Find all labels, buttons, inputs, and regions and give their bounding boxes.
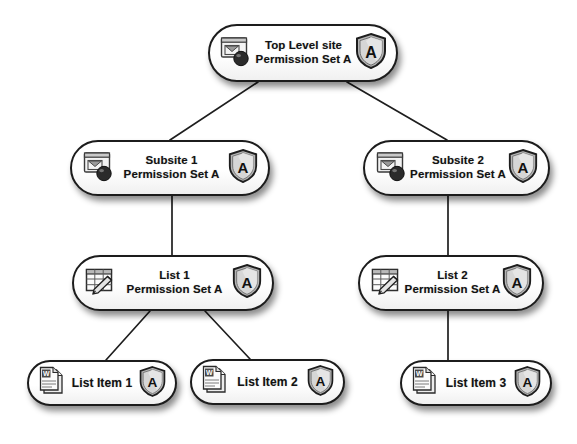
shield-badge-letter: A xyxy=(316,374,326,389)
node-list-2[interactable]: List 2 Permission Set A A xyxy=(358,255,544,311)
document-icon: W xyxy=(201,365,229,399)
node-label-line1: List 1 xyxy=(159,269,190,281)
list-icon xyxy=(370,266,404,300)
node-list-item-2[interactable]: W List Item 2 A xyxy=(190,359,345,405)
node-label: List 1 Permission Set A xyxy=(118,269,231,296)
node-label-line1: List Item 1 xyxy=(72,376,132,390)
shield-badge-letter: A xyxy=(238,159,249,176)
shield-badge-letter: A xyxy=(148,375,158,390)
node-top-level-site[interactable]: Top Level site Permission Set A A xyxy=(208,24,398,82)
shield-icon: A xyxy=(138,365,167,402)
shield-badge-letter: A xyxy=(523,375,533,390)
shield-icon: A xyxy=(501,263,533,303)
node-label-line2: Permission Set A xyxy=(116,168,227,182)
shield-badge-letter: A xyxy=(518,159,529,176)
document-icon: W xyxy=(411,366,439,400)
diagram-canvas: Top Level site Permission Set A A xyxy=(0,0,577,444)
list-icon xyxy=(84,266,118,300)
node-label-line1: List 2 xyxy=(437,269,468,281)
node-subsite-1[interactable]: Subsite 1 Permission Set A A xyxy=(70,140,270,196)
svg-text:W: W xyxy=(206,369,213,376)
node-list-1[interactable]: List 1 Permission Set A A xyxy=(72,255,274,311)
shield-badge-letter: A xyxy=(365,44,377,61)
edge-list1-to-item1 xyxy=(106,311,150,360)
node-label: List Item 2 xyxy=(229,375,306,389)
node-label-line2: Permission Set A xyxy=(118,283,231,297)
node-label: List 2 Permission Set A xyxy=(404,269,501,296)
node-list-item-1[interactable]: W List Item 1 A xyxy=(27,360,177,406)
node-label-line1: Subsite 2 xyxy=(432,154,484,166)
shield-icon: A xyxy=(354,32,388,74)
node-label: Subsite 1 Permission Set A xyxy=(116,154,227,181)
site-icon xyxy=(375,150,409,186)
node-label-line2: Permission Set A xyxy=(409,168,507,182)
svg-text:W: W xyxy=(416,370,423,377)
node-subsite-2[interactable]: Subsite 2 Permission Set A A xyxy=(363,140,550,196)
node-label-line1: List Item 3 xyxy=(446,376,506,390)
edge-top-to-sub1 xyxy=(170,82,258,140)
node-label-line1: Subsite 1 xyxy=(145,154,197,166)
edge-top-to-sub2 xyxy=(347,82,447,140)
node-label: Top Level site Permission Set A xyxy=(253,39,354,66)
node-label-line1: Top Level site xyxy=(265,39,342,51)
shield-badge-letter: A xyxy=(512,274,523,291)
shield-icon: A xyxy=(507,148,539,188)
node-label-line2: Permission Set A xyxy=(253,53,354,67)
node-label: List Item 3 xyxy=(439,376,513,390)
shield-icon: A xyxy=(231,263,263,303)
shield-icon: A xyxy=(227,148,259,188)
svg-text:W: W xyxy=(43,370,50,377)
site-icon xyxy=(219,35,253,71)
site-icon xyxy=(82,150,116,186)
node-label: Subsite 2 Permission Set A xyxy=(409,154,507,181)
node-label: List Item 1 xyxy=(66,376,138,390)
shield-icon: A xyxy=(513,365,542,402)
node-label-line2: Permission Set A xyxy=(404,283,501,297)
edge-list1-to-item2 xyxy=(205,311,250,359)
node-label-line1: List Item 2 xyxy=(237,375,297,389)
shield-icon: A xyxy=(306,364,335,401)
node-list-item-3[interactable]: W List Item 3 A xyxy=(400,360,552,406)
shield-badge-letter: A xyxy=(242,274,253,291)
document-icon: W xyxy=(38,366,66,400)
